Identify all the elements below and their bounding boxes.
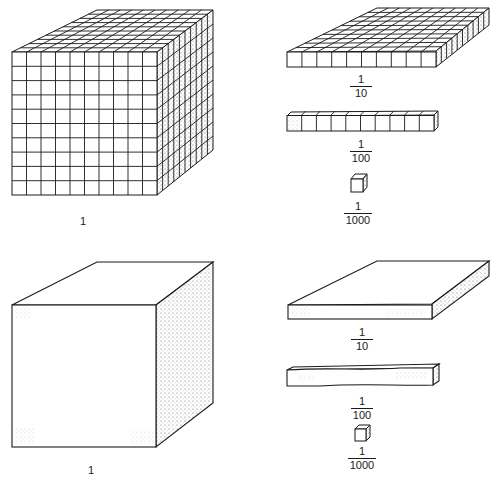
denominator: 100 — [342, 410, 382, 421]
solid-hundredth-rod — [287, 364, 439, 386]
bottom-unit-fraction: 1 1000 — [342, 446, 382, 471]
gridded-tenth-flat — [287, 8, 489, 67]
numerator: 1 — [338, 201, 378, 212]
denominator: 1000 — [342, 460, 382, 471]
gridded-hundredth-rod — [287, 111, 438, 131]
blocks-illustration — [0, 0, 496, 491]
denominator: 10 — [341, 88, 381, 99]
denominator: 10 — [342, 341, 382, 352]
bottom-rod-fraction: 1 100 — [342, 396, 382, 421]
solid-unit-cube — [12, 262, 213, 447]
gridded-thousandth-cube — [351, 174, 367, 192]
bottom-cube-label: 1 — [86, 465, 96, 476]
numerator: 1 — [341, 139, 381, 150]
top-unit-fraction: 1 1000 — [338, 201, 378, 226]
numerator: 1 — [342, 446, 382, 457]
top-cube-label: 1 — [78, 216, 88, 227]
top-rod-fraction: 1 100 — [341, 139, 381, 164]
solid-thousandth-cube — [355, 425, 370, 441]
numerator: 1 — [341, 74, 381, 85]
denominator: 1000 — [338, 215, 378, 226]
numerator: 1 — [342, 396, 382, 407]
top-flat-fraction: 1 10 — [341, 74, 381, 99]
numerator: 1 — [342, 327, 382, 338]
gridded-unit-cube — [12, 10, 213, 195]
solid-tenth-flat — [288, 261, 489, 319]
bottom-flat-fraction: 1 10 — [342, 327, 382, 352]
denominator: 100 — [341, 153, 381, 164]
